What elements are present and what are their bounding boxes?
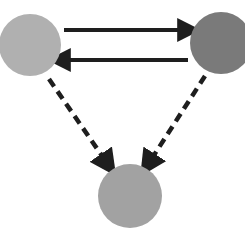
nodes-layer	[0, 12, 245, 228]
edges-layer	[49, 30, 205, 166]
node-left	[0, 14, 61, 76]
arrow-right-to-bottom-icon	[147, 76, 205, 166]
node-right	[190, 12, 245, 74]
diagram-canvas	[0, 0, 245, 230]
arrow-left-to-bottom-icon	[49, 79, 109, 166]
diagram-svg	[0, 0, 245, 230]
node-bottom	[98, 164, 162, 228]
